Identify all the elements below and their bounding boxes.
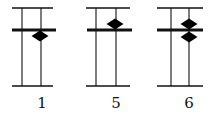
- frame-label: 5: [111, 94, 121, 112]
- bead-icon: [181, 32, 198, 43]
- abacus-frame-1: 1: [12, 8, 56, 112]
- bead-icon: [107, 19, 124, 30]
- bead-icon: [32, 31, 49, 42]
- abacus-frame-5: 5: [86, 8, 132, 112]
- abacus-frame-6: 6: [157, 8, 203, 112]
- abacus-diagram: 156: [0, 0, 213, 117]
- frame-label: 6: [184, 94, 194, 112]
- frame-label: 1: [37, 94, 47, 112]
- bead-icon: [181, 19, 198, 30]
